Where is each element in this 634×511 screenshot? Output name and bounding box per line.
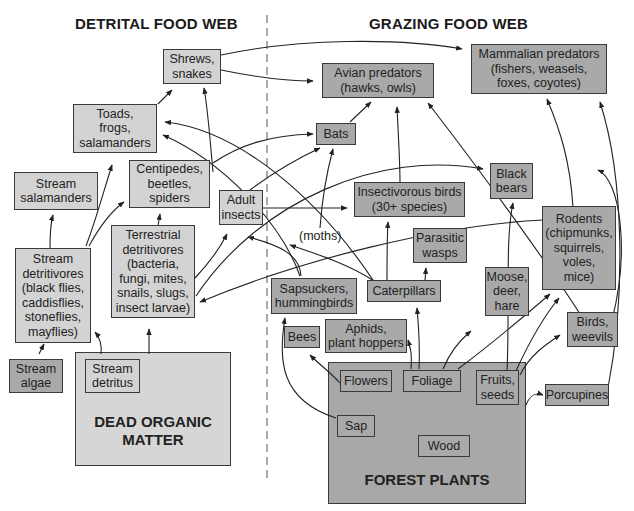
moths-label: (moths) <box>299 229 341 243</box>
adult-insects-box: Adult insects <box>219 190 263 225</box>
flowers-box: Flowers <box>340 370 392 392</box>
toads-frogs-salamanders-box: Toads, frogs, salamanders <box>73 104 157 153</box>
avian-predators-box: Avian predators (hawks, owls) <box>322 63 434 98</box>
bats-box: Bats <box>316 123 356 145</box>
wood-box: Wood <box>418 435 470 457</box>
stream-detritivores-box: Stream detritivores (black flies, caddis… <box>15 248 91 343</box>
black-bears-box: Black bears <box>490 163 533 199</box>
terrestrial-detritivores-box: Terrestrial detritivores (bacteria, fung… <box>111 225 195 318</box>
stream-algae-box: Stream algae <box>9 359 63 393</box>
mammalian-predators-box: Mammalian predators (fishers, weasels, f… <box>471 44 607 94</box>
moose-deer-hare-box: Moose, deer, hare <box>485 267 529 316</box>
aphids-plant-hoppers-box: Aphids, plant hoppers <box>325 319 407 353</box>
parasitic-wasps-box: Parasitic wasps <box>413 228 467 263</box>
sapsuckers-hummingbirds-box: Sapsuckers, hummingbirds <box>271 278 357 314</box>
birds-weevils-box: Birds, weevils <box>567 312 618 347</box>
caterpillars-box: Caterpillars <box>367 280 441 302</box>
sap-box: Sap <box>337 415 375 437</box>
centipedes-beetles-spiders-box: Centipedes, beetles, spiders <box>129 160 210 208</box>
insectivorous-birds-box: Insectivorous birds (30+ species) <box>354 182 465 217</box>
stream-detritus-box: Stream detritus <box>85 359 140 393</box>
fruits-seeds-box: Fruits, seeds <box>476 370 519 405</box>
stream-salamanders-box: Stream salamanders <box>14 172 98 210</box>
porcupines-box: Porcupines <box>545 384 609 406</box>
rodents-box: Rodents (chipmunks, squirrels, voles, mi… <box>542 206 616 290</box>
shrews-snakes-box: Shrews, snakes <box>163 49 221 84</box>
bees-box: Bees <box>284 326 320 348</box>
foliage-box: Foliage <box>403 370 461 392</box>
